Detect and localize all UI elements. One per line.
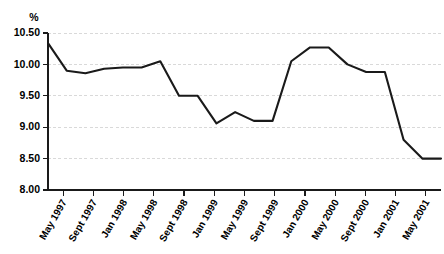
x-axis-tick-label: Sept 2000 (338, 197, 371, 243)
x-axis-tick-label: May 1997 (37, 197, 69, 241)
y-axis-tick-labels: 10.5010.009.509.008.508.00 (14, 26, 40, 195)
x-axis-tick-label: May 2001 (400, 197, 432, 241)
y-axis-ticks (43, 33, 48, 190)
y-axis-tick-label: 9.50 (20, 89, 41, 101)
x-axis-tick-label: Jan 1998 (99, 197, 130, 239)
gridlines (48, 33, 441, 159)
x-axis-tick-label: Jan 2000 (280, 197, 311, 239)
data-series-line (48, 43, 441, 159)
x-axis-tick-labels: May 1997Sept 1997Jan 1998May 1998Sept 19… (37, 197, 432, 243)
y-axis-tick-label: 10.00 (14, 58, 40, 70)
x-axis-tick-label: Sept 1999 (248, 197, 281, 243)
y-axis-tick-label: 8.00 (20, 183, 41, 195)
y-axis-tick-label: 9.00 (20, 120, 41, 132)
x-axis-tick-label: May 1998 (128, 197, 160, 241)
y-axis-unit-label: % (29, 11, 39, 23)
x-axis-tick-label: Jan 1999 (189, 197, 220, 239)
x-axis-ticks (63, 190, 426, 196)
line-chart: 10.5010.009.509.008.508.00 May 1997Sept … (0, 0, 444, 254)
x-axis-tick-label: Sept 1997 (66, 197, 99, 243)
y-axis-tick-label: 10.50 (14, 26, 40, 38)
x-axis-tick-label: May 1999 (218, 197, 250, 241)
x-axis-tick-label: Sept 1998 (157, 197, 190, 243)
x-axis-tick-label: Jan 2001 (371, 197, 402, 239)
x-axis-tick-label: May 2000 (309, 197, 341, 241)
y-axis-tick-label: 8.50 (20, 152, 41, 164)
chart-canvas: 10.5010.009.509.008.508.00 May 1997Sept … (0, 0, 444, 254)
